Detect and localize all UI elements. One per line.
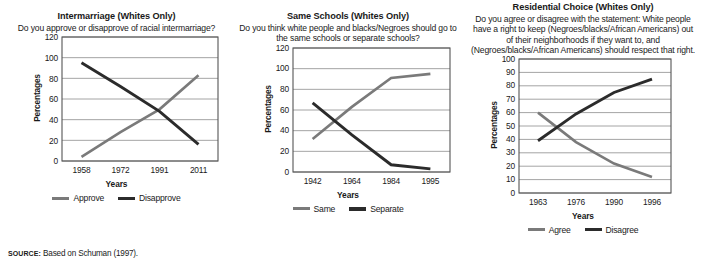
- chart-3-x-tick: 1963: [529, 197, 547, 207]
- chart-1-y-tick: 120: [37, 32, 58, 42]
- chart-panel-intermarriage: Intermarriage (Whites Only) Do you appro…: [0, 0, 233, 273]
- legend-label: Same: [314, 204, 336, 214]
- chart-3-y-tick: 20: [494, 161, 515, 171]
- chart-1-title: Intermarriage (Whites Only): [6, 11, 227, 22]
- chart-3-y-tick: 100: [494, 54, 515, 64]
- chart-1-y-tick: 80: [37, 74, 58, 84]
- legend-item-separate[interactable]: Separate: [349, 204, 403, 214]
- legend-swatch-icon: [52, 197, 69, 200]
- legend-label: Approve: [73, 193, 104, 203]
- chart-2-y-tick: 0: [268, 167, 289, 177]
- chart-1-y-tick: 60: [37, 94, 58, 104]
- figure-panels: Intermarriage (Whites Only) Do you appro…: [0, 0, 703, 273]
- legend-swatch-icon: [118, 197, 135, 200]
- legend-item-approve[interactable]: Approve: [52, 193, 104, 203]
- series-line-same: [313, 74, 431, 139]
- chart-3-legend: AgreeDisagree: [463, 225, 703, 235]
- legend-swatch-icon: [528, 228, 545, 231]
- chart-1-x-tick: 1958: [73, 165, 91, 175]
- chart-3-x-tick: 1996: [643, 197, 661, 207]
- chart-3-x-axis-label: Years: [463, 211, 703, 221]
- series-line-disagree: [538, 79, 652, 141]
- chart-3-y-tick: 40: [494, 134, 515, 144]
- chart-2-legend: SameSeparate: [233, 204, 463, 214]
- chart-1-y-tick: 20: [37, 136, 58, 146]
- chart-2-y-tick: 60: [268, 105, 289, 115]
- chart-3-y-tick: 70: [494, 94, 515, 104]
- chart-2-x-axis-label: Years: [233, 190, 463, 200]
- chart-1-y-tick: 100: [37, 53, 58, 63]
- chart-panel-residential-choice: Residential Choice (Whites Only) Do you …: [463, 0, 703, 273]
- legend-item-disapprove[interactable]: Disapprove: [118, 193, 180, 203]
- chart-2-y-tick: 120: [268, 43, 289, 53]
- legend-swatch-icon: [349, 207, 366, 210]
- chart-2-header: Same Schools (Whites Only) Do you think …: [233, 0, 463, 44]
- chart-3-y-tick: 80: [494, 80, 515, 90]
- legend-label: Agree: [549, 225, 571, 235]
- chart-3-title: Residential Choice (Whites Only): [469, 2, 697, 13]
- legend-label: Disapprove: [139, 193, 180, 203]
- chart-2-x-tick: 1964: [343, 176, 361, 186]
- chart-panel-same-schools: Same Schools (Whites Only) Do you think …: [233, 0, 463, 273]
- chart-1-plot: Percentages02040608010012019581972199120…: [0, 33, 233, 233]
- legend-item-disagree[interactable]: Disagree: [585, 225, 639, 235]
- legend-swatch-icon: [293, 207, 310, 210]
- chart-1-x-tick: 2011: [190, 165, 207, 175]
- chart-2-x-tick: 1942: [304, 176, 322, 186]
- series-line-separate: [313, 103, 431, 169]
- chart-2-y-tick: 20: [268, 146, 289, 156]
- chart-1-y-tick: 40: [37, 115, 58, 125]
- chart-3-y-tick: 10: [494, 174, 515, 184]
- chart-2-y-tick: 100: [268, 63, 289, 73]
- legend-label: Disagree: [606, 225, 639, 235]
- series-line-disapprove: [82, 63, 199, 145]
- chart-3-x-tick: 1976: [567, 197, 585, 207]
- legend-label: Separate: [370, 204, 403, 214]
- chart-3-y-tick: 60: [494, 107, 515, 117]
- legend-item-agree[interactable]: Agree: [528, 225, 571, 235]
- chart-3-y-tick: 90: [494, 67, 515, 77]
- legend-swatch-icon: [585, 228, 602, 231]
- chart-1-y-tick: 0: [37, 156, 58, 166]
- series-line-approve: [82, 76, 199, 158]
- chart-3-x-tick: 1990: [605, 197, 623, 207]
- chart-2-x-tick: 1995: [421, 176, 439, 186]
- chart-1-x-axis-label: Years: [0, 179, 233, 189]
- chart-3-y-tick: 30: [494, 147, 515, 157]
- chart-2-title: Same Schools (Whites Only): [239, 11, 457, 22]
- chart-1-x-tick: 1991: [151, 165, 169, 175]
- series-line-agree: [538, 112, 652, 176]
- chart-3-y-tick: 50: [494, 121, 515, 131]
- chart-3-subtitle: Do you agree or disagree with the statem…: [469, 14, 697, 56]
- chart-3-header: Residential Choice (Whites Only) Do you …: [463, 0, 703, 56]
- chart-2-subtitle: Do you think white people and blacks/Neg…: [239, 23, 457, 44]
- source-label: SOURCE:: [8, 250, 41, 257]
- chart-1-legend: ApproveDisapprove: [0, 193, 233, 203]
- source-note: SOURCE: Based on Schuman (1997).: [8, 249, 138, 258]
- chart-2-y-tick: 40: [268, 125, 289, 135]
- chart-3-plot: Percentages01020304050607080901001963197…: [463, 56, 703, 266]
- chart-3-y-tick: 0: [494, 188, 515, 198]
- source-text: Based on Schuman (1997).: [41, 249, 138, 258]
- chart-2-plot: Percentages02040608010012019421964198419…: [233, 44, 463, 244]
- legend-item-same[interactable]: Same: [293, 204, 336, 214]
- chart-2-y-tick: 80: [268, 84, 289, 94]
- chart-1-header: Intermarriage (Whites Only) Do you appro…: [0, 0, 233, 33]
- chart-1-x-tick: 1972: [112, 165, 130, 175]
- chart-2-x-tick: 1984: [382, 176, 400, 186]
